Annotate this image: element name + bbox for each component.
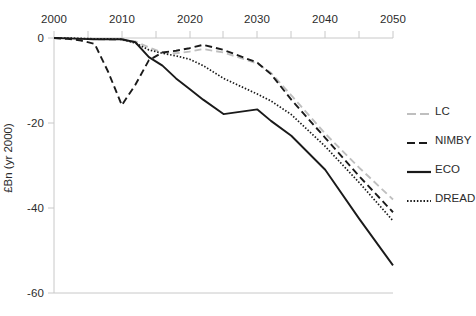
series-line-lc [54, 38, 393, 200]
chart-container: 2000 2010 2020 2030 2040 2050 0 -20 -40 … [0, 0, 476, 316]
legend-label-lc: LC [435, 106, 450, 118]
y-tick-label-40: -40 [4, 202, 44, 214]
x-axis-ticks [54, 31, 393, 38]
legend-swatch-eco [406, 164, 432, 176]
chart-series-layer [54, 38, 393, 265]
legend-swatch-nimby [406, 135, 432, 147]
legend-item-lc[interactable]: LC [406, 97, 476, 126]
x-tick-label-2030: 2030 [244, 13, 270, 25]
legend-label-eco: ECO [435, 164, 460, 176]
x-tick-label-2050: 2050 [380, 13, 406, 25]
legend-label-nimby: NIMBY [435, 135, 471, 147]
series-line-nimby [54, 38, 393, 212]
y-tick-label-60: -60 [4, 287, 44, 299]
chart-legend: LC NIMBY ECO DREAD [406, 97, 476, 213]
x-tick-label-2010: 2010 [109, 13, 135, 25]
legend-item-dread[interactable]: DREAD [406, 184, 476, 213]
legend-item-eco[interactable]: ECO [406, 155, 476, 184]
y-tick-label-0: 0 [4, 32, 44, 44]
x-tick-label-2040: 2040 [312, 13, 338, 25]
y-axis-ticks [48, 38, 54, 293]
y-axis-title: £Bn (yr 2000) [2, 123, 14, 193]
legend-swatch-dread [406, 193, 432, 205]
x-tick-label-2000: 2000 [41, 13, 67, 25]
x-tick-label-2020: 2020 [177, 13, 203, 25]
legend-item-nimby[interactable]: NIMBY [406, 126, 476, 155]
legend-label-dread: DREAD [435, 193, 475, 205]
chart-plot-area [0, 0, 476, 316]
legend-swatch-lc [406, 106, 432, 118]
